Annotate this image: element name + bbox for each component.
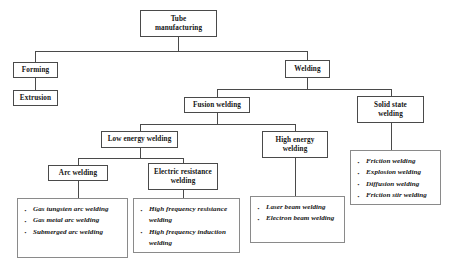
- node-low-energy-welding[interactable]: Low energy welding: [101, 131, 178, 148]
- connector-highenergy-down: [295, 124, 296, 131]
- list-items: Laser beam welding Electron beam welding: [255, 202, 340, 225]
- list-item[interactable]: Electron beam welding: [255, 213, 340, 224]
- node-label: Welding: [294, 65, 320, 74]
- list-item[interactable]: Friction welding: [355, 156, 436, 167]
- node-extrusion[interactable]: Extrusion: [13, 90, 58, 106]
- connector-fusion-bus: [140, 124, 295, 125]
- connector-welding-down: [307, 51, 308, 60]
- connector-lowenergy-bus: [78, 158, 183, 159]
- connector-lowenergy-down2: [140, 148, 141, 158]
- flowchart-canvas: Tube manufacturing Forming Extrusion Wel…: [0, 0, 450, 277]
- list-item[interactable]: Explosion welding: [355, 167, 436, 178]
- list-item[interactable]: Diffusion welding: [355, 179, 436, 190]
- node-tube-manufacturing[interactable]: Tube manufacturing: [140, 10, 217, 37]
- list-arc-welding-processes: Gas tungsten arc welding Gas metal arc w…: [17, 198, 128, 258]
- node-high-energy-welding[interactable]: High energy welding: [262, 131, 328, 158]
- connector-arcwelding-down: [78, 158, 79, 165]
- node-label: Low energy welding: [108, 135, 172, 144]
- node-label: Forming: [22, 66, 49, 75]
- connector-welding-bus: [217, 89, 391, 90]
- list-items: High frequency resistance welding High f…: [138, 204, 235, 250]
- node-label: Electric resistance welding: [154, 168, 212, 186]
- node-label: Arc welding: [59, 169, 97, 178]
- connector-forming-down: [35, 51, 36, 62]
- list-solid-state-processes: Friction welding Explosion welding Diffu…: [350, 150, 441, 205]
- node-electric-resistance-welding[interactable]: Electric resistance welding: [148, 163, 218, 190]
- node-forming[interactable]: Forming: [13, 62, 58, 78]
- list-items: Gas tungsten arc welding Gas metal arc w…: [22, 204, 123, 238]
- list-item[interactable]: Gas metal arc welding: [22, 215, 123, 226]
- list-item[interactable]: High frequency resistance welding: [138, 204, 235, 227]
- node-label: Extrusion: [20, 94, 51, 103]
- connector-fusion-down2: [217, 113, 218, 124]
- list-item[interactable]: Gas tungsten arc welding: [22, 204, 123, 215]
- connector-solidstate-down: [391, 89, 392, 96]
- node-label: Solid state welding: [374, 101, 407, 119]
- list-high-energy-processes: Laser beam welding Electron beam welding: [250, 196, 345, 243]
- node-welding[interactable]: Welding: [285, 60, 330, 78]
- connector-highenergy-list: [295, 158, 296, 196]
- list-items: Friction welding Explosion welding Diffu…: [355, 156, 436, 202]
- connector-arcwelding-list: [78, 181, 79, 198]
- connector-forming-extrusion: [35, 78, 36, 90]
- connector-erw-list: [183, 190, 184, 198]
- list-item[interactable]: High frequency induction welding: [138, 227, 235, 250]
- node-arc-welding[interactable]: Arc welding: [48, 165, 108, 181]
- node-label: High energy welding: [276, 136, 315, 154]
- connector-lowenergy-down: [140, 124, 141, 131]
- node-solid-state-welding[interactable]: Solid state welding: [357, 96, 424, 123]
- connector-level1-bus: [35, 51, 307, 52]
- node-fusion-welding[interactable]: Fusion welding: [184, 97, 250, 113]
- list-item[interactable]: Laser beam welding: [255, 202, 340, 213]
- connector-root-down: [178, 37, 179, 51]
- connector-welding-down2: [307, 78, 308, 89]
- list-item[interactable]: Submerged arc welding: [22, 227, 123, 238]
- list-electric-resistance-processes: High frequency resistance welding High f…: [133, 198, 240, 253]
- list-item[interactable]: Friction stir welding: [355, 190, 436, 201]
- node-label: Fusion welding: [193, 101, 241, 110]
- connector-solidstate-list: [391, 123, 392, 150]
- connector-fusion-down: [217, 89, 218, 97]
- node-label: Tube manufacturing: [155, 15, 202, 33]
